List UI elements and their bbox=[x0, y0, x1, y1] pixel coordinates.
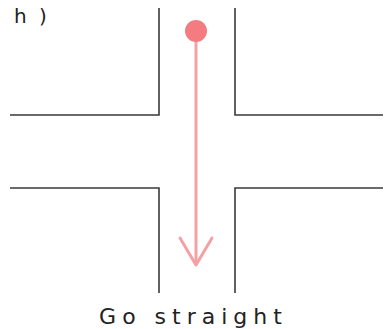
caption: Go straight bbox=[0, 304, 387, 329]
road-edge-bottom-right bbox=[235, 188, 383, 293]
road-edge-bottom-left bbox=[10, 188, 159, 293]
road-edge-top-right bbox=[235, 8, 383, 115]
start-dot bbox=[185, 20, 207, 42]
path-arrow bbox=[180, 20, 212, 265]
road-edge-top-left bbox=[10, 8, 159, 115]
